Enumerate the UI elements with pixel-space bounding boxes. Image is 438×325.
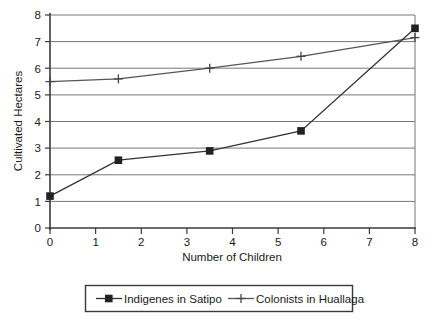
y-tick-label-0: 0 [35, 222, 41, 234]
y-tick-label-1: 1 [35, 196, 41, 208]
x-tick-label-2: 2 [138, 236, 144, 248]
chart-container: 8 7 6 5 4 3 2 1 0 0 1 2 3 4 [0, 0, 438, 325]
x-tick-label-5: 5 [275, 236, 281, 248]
square-marker-icon [411, 25, 419, 33]
y-tick-label-5: 5 [35, 89, 41, 101]
x-tick-label-7: 7 [366, 236, 372, 248]
y-axis-tick-labels: 8 7 6 5 4 3 2 1 0 [35, 9, 42, 234]
x-tick-label-0: 0 [47, 236, 53, 248]
y-tick-label-7: 7 [35, 36, 41, 48]
line-chart-figure: 8 7 6 5 4 3 2 1 0 0 1 2 3 4 [0, 0, 438, 325]
square-marker-icon [115, 156, 123, 164]
chart-legend: Indigenes in Satipo Colonists in Huallag… [86, 286, 365, 312]
y-tick-label-2: 2 [35, 169, 41, 181]
y-tick-label-8: 8 [35, 9, 41, 21]
square-marker-icon [297, 127, 305, 135]
square-marker-icon [46, 192, 54, 200]
x-tick-label-8: 8 [412, 236, 418, 248]
x-axis-title: Number of Children [182, 251, 282, 263]
y-tick-label-4: 4 [35, 116, 42, 128]
x-tick-label-4: 4 [229, 236, 236, 248]
square-marker-icon [105, 295, 113, 303]
y-axis-title: Cultivated Hectares [12, 71, 24, 172]
x-tick-label-3: 3 [184, 236, 190, 248]
legend-label-colonists: Colonists in Huallaga [256, 293, 365, 305]
y-tick-label-3: 3 [35, 142, 41, 154]
x-tick-label-6: 6 [321, 236, 327, 248]
chart-background [0, 0, 438, 325]
square-marker-icon [206, 147, 214, 155]
y-tick-label-6: 6 [35, 63, 41, 75]
legend-label-indigenes: Indigenes in Satipo [124, 293, 222, 305]
x-tick-label-1: 1 [92, 236, 98, 248]
